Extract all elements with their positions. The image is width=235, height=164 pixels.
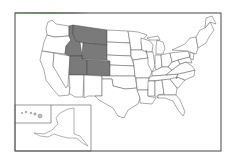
- state-colorado[interactable]: [87, 60, 110, 76]
- state-florida[interactable]: [158, 95, 185, 116]
- state-mississippi[interactable]: [148, 81, 155, 96]
- state-north-dakota[interactable]: [107, 30, 130, 43]
- us-map: [0, 0, 235, 164]
- state-wyoming[interactable]: [82, 43, 107, 60]
- state-washington[interactable]: [46, 20, 69, 37]
- state-nebraska[interactable]: [107, 55, 134, 66]
- state-kansas[interactable]: [110, 65, 135, 76]
- state-arizona[interactable]: [69, 75, 84, 97]
- state-south-dakota[interactable]: [107, 42, 131, 56]
- state-arkansas[interactable]: [136, 78, 149, 90]
- state-new-mexico[interactable]: [84, 75, 102, 98]
- region-hawaii[interactable]: [21, 111, 42, 118]
- region-alaska[interactable]: [34, 108, 88, 146]
